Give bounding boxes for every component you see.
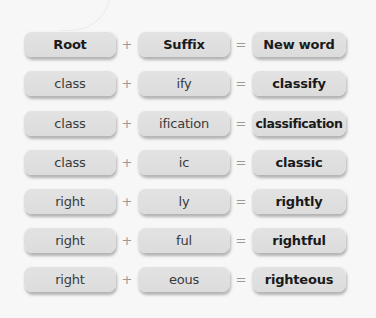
plus-sign: + bbox=[116, 31, 138, 57]
equals-sign: = bbox=[230, 149, 252, 175]
root-box: class bbox=[24, 70, 116, 96]
plus-sign: + bbox=[116, 149, 138, 175]
suffix-box: ification bbox=[138, 110, 230, 136]
word-row: right + ly = rightly bbox=[0, 188, 376, 216]
header-row: Root + Suffix = New word bbox=[0, 31, 376, 59]
word-formation-diagram: Root + Suffix = New word class + ify = c… bbox=[0, 0, 376, 318]
plus-sign: + bbox=[116, 266, 138, 292]
root-box: right bbox=[24, 188, 116, 214]
root-box: class bbox=[24, 149, 116, 175]
header-result-box: New word bbox=[252, 31, 346, 57]
plus-sign: + bbox=[116, 227, 138, 253]
word-row: class + ification = classification bbox=[0, 110, 376, 138]
suffix-box: ful bbox=[138, 227, 230, 253]
result-box: classify bbox=[252, 70, 346, 96]
plus-sign: + bbox=[116, 70, 138, 96]
suffix-box: ic bbox=[138, 149, 230, 175]
equals-sign: = bbox=[230, 31, 252, 57]
result-box: rightful bbox=[252, 227, 346, 253]
root-box: right bbox=[24, 266, 116, 292]
root-box: right bbox=[24, 227, 116, 253]
equals-sign: = bbox=[230, 110, 252, 136]
equals-sign: = bbox=[230, 227, 252, 253]
result-box: righteous bbox=[252, 266, 346, 292]
equals-sign: = bbox=[230, 188, 252, 214]
word-row: right + eous = righteous bbox=[0, 266, 376, 294]
root-box: class bbox=[24, 110, 116, 136]
result-box: classic bbox=[252, 149, 346, 175]
result-box: rightly bbox=[252, 188, 346, 214]
plus-sign: + bbox=[116, 188, 138, 214]
header-root-box: Root bbox=[24, 31, 116, 57]
suffix-box: eous bbox=[138, 266, 230, 292]
suffix-box: ify bbox=[138, 70, 230, 96]
header-suffix-box: Suffix bbox=[138, 31, 230, 57]
word-row: class + ic = classic bbox=[0, 149, 376, 177]
equals-sign: = bbox=[230, 70, 252, 96]
result-box: classification bbox=[252, 110, 346, 136]
word-row: right + ful = rightful bbox=[0, 227, 376, 255]
suffix-box: ly bbox=[138, 188, 230, 214]
plus-sign: + bbox=[116, 110, 138, 136]
equals-sign: = bbox=[230, 266, 252, 292]
word-row: class + ify = classify bbox=[0, 70, 376, 98]
